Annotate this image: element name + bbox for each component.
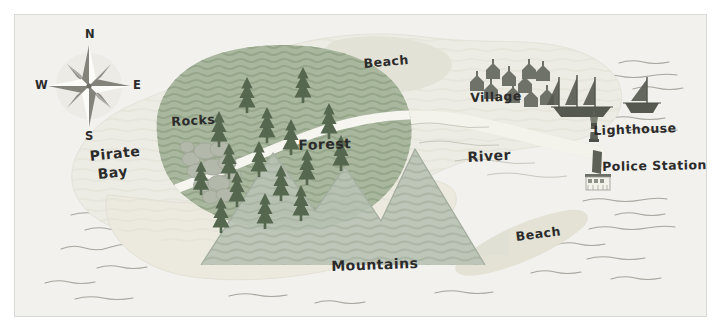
label-rocks: Rocks [171, 113, 216, 129]
map-border: Pirate Bay Rocks Forest Beach Village Ri… [14, 14, 707, 317]
label-forest: Forest [298, 136, 352, 154]
compass-label-west: W [35, 78, 48, 92]
map-frame: Pirate Bay Rocks Forest Beach Village Ri… [0, 0, 721, 331]
compass-label-north: N [85, 27, 95, 41]
label-police-station: Police Station [602, 158, 707, 174]
label-village: Village [470, 89, 522, 105]
compass-label-south: S [85, 129, 93, 143]
label-river: River [467, 148, 511, 166]
label-mountains: Mountains [331, 256, 419, 275]
label-pirate-bay-line2: Bay [97, 164, 129, 183]
compass-label-east: E [133, 78, 141, 92]
label-lighthouse: Lighthouse [593, 121, 677, 138]
